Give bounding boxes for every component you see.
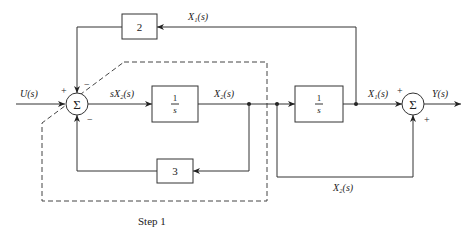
x2-top-label: X₂(s) (213, 88, 235, 100)
left-sum-sign-top: − (84, 79, 90, 90)
x2-bottom-label: X₂(s) (332, 182, 354, 194)
output-label: Y(s) (432, 88, 449, 100)
sx2-label: sX₂(s) (110, 88, 135, 100)
gain3-value: 3 (172, 165, 178, 177)
integrator1-denominator: s (173, 105, 177, 115)
x1-top-label: X₁(s) (187, 11, 209, 23)
x1-right-label: X₁(s) (367, 88, 389, 100)
integrator-block-1: 1 s (152, 86, 198, 122)
left-sigma-symbol: Σ (73, 97, 81, 112)
gain-block-2: 2 (122, 14, 157, 39)
right-sigma-symbol: Σ (409, 97, 417, 112)
step1-caption: Step 1 (138, 215, 166, 227)
input-label: U(s) (20, 88, 38, 100)
right-sum-sign-bottom: + (424, 114, 430, 125)
step1-boundary (42, 62, 267, 201)
integrator1-numerator: 1 (173, 93, 178, 103)
left-sum-sign-input: + (61, 85, 67, 96)
left-sum-sign-bottom: − (87, 114, 93, 125)
gain2-value: 2 (137, 21, 143, 33)
gain-block-3: 3 (157, 159, 193, 183)
integrator2-denominator: s (317, 105, 321, 115)
left-summing-junction: Σ (66, 93, 88, 115)
feedback-line-gain3-in (193, 104, 249, 171)
right-sum-sign-left: + (397, 85, 403, 96)
block-diagram: U(s) Σ + − − sX₂(s) 1 s X₂(s) 3 1 s X₁(s… (0, 0, 474, 237)
right-summing-junction: Σ (402, 93, 424, 115)
integrator2-numerator: 1 (317, 93, 322, 103)
integrator-block-2: 1 s (295, 86, 343, 122)
